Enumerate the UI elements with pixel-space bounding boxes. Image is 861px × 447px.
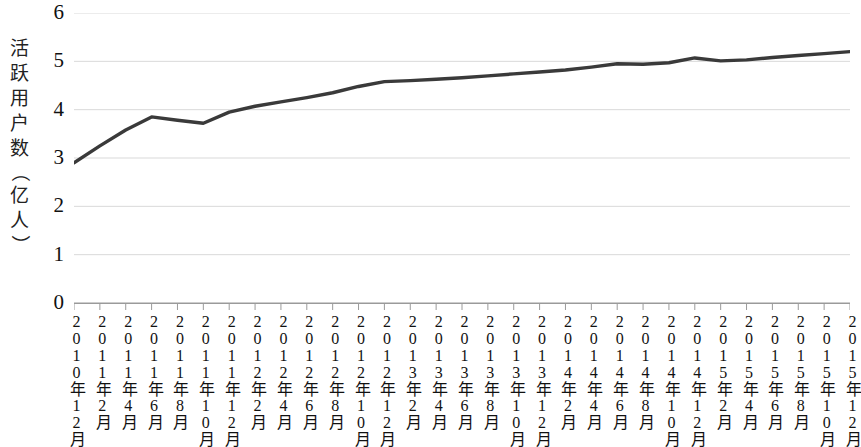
data-series-line	[74, 52, 850, 163]
x-axis-tick-label: 2015年6月	[762, 313, 782, 430]
y-axis-tick-label: 0	[38, 292, 64, 313]
y-axis-tick-label: 5	[38, 50, 64, 71]
x-axis-tick-label: 2013年2月	[400, 313, 420, 430]
gridlines	[74, 13, 850, 303]
x-axis-tick-label: 2015年8月	[788, 313, 808, 430]
x-axis-tick-label: 2012年2月	[245, 313, 265, 430]
x-axis-tick-label: 2011年2月	[90, 313, 110, 430]
x-axis-tick-label: 2011年6月	[142, 313, 162, 430]
x-axis-tick-label: 2013年8月	[478, 313, 498, 430]
y-axis-title-char: 跃	[2, 61, 36, 86]
y-axis-tick-labels: 0123456	[38, 0, 64, 310]
x-axis-tick-label: 2012年6月	[297, 313, 317, 430]
x-axis-tick-label: 2014年2月	[555, 313, 575, 430]
x-axis-tick-label: 2015年2月	[711, 313, 731, 430]
x-axis-tick-label: 2011年12月	[219, 313, 239, 447]
y-axis-tick-label: 1	[38, 244, 64, 265]
x-axis-tick-label: 2011年8月	[167, 313, 187, 430]
x-axis-tick-label: 2013年12月	[530, 313, 550, 447]
x-axis-tick-label: 2013年4月	[426, 313, 446, 430]
x-axis-tick-label: 2013年10月	[504, 313, 524, 447]
y-axis-tick-label: 4	[38, 99, 64, 120]
y-axis-title-char: 用	[2, 86, 36, 111]
y-axis-tick-label: 6	[38, 2, 64, 23]
x-axis-tick-label: 2014年12月	[685, 313, 705, 447]
x-axis-tick-labels: 2010年12月2011年2月2011年4月2011年6月2011年8月2011…	[74, 313, 850, 431]
plot-svg	[74, 13, 850, 303]
y-axis-tick-label: 2	[38, 195, 64, 216]
y-axis-tick-label: 3	[38, 147, 64, 168]
x-axis-tick-label: 2011年10月	[193, 313, 213, 447]
x-axis-tick-label: 2014年4月	[581, 313, 601, 430]
x-axis-tick-label: 2013年6月	[452, 313, 472, 430]
y-axis-title-char: 活	[2, 36, 36, 61]
x-axis	[74, 303, 850, 312]
x-axis-tick-label: 2015年12月	[840, 313, 860, 447]
y-axis-title: 活跃用户数（亿人）	[2, 36, 36, 255]
y-axis-title-char: ）	[8, 227, 30, 261]
y-axis-title-char: 户	[2, 111, 36, 136]
x-axis-tick-label: 2015年10月	[814, 313, 834, 447]
plot-area	[74, 13, 850, 303]
x-axis-tick-label: 2011年4月	[116, 313, 136, 430]
x-axis-tick-label: 2014年10月	[659, 313, 679, 447]
y-axis-title-char: （	[8, 155, 30, 189]
x-axis-tick-label: 2012年4月	[271, 313, 291, 430]
x-axis-tick-label: 2010年12月	[64, 313, 84, 447]
x-axis-tick-label: 2015年4月	[737, 313, 757, 430]
x-axis-tick-label: 2014年6月	[607, 313, 627, 430]
x-axis-svg	[74, 303, 850, 312]
x-axis-tick-label: 2012年10月	[349, 313, 369, 447]
x-axis-tick-label: 2012年8月	[323, 313, 343, 430]
x-axis-tick-label: 2012年12月	[374, 313, 394, 447]
x-axis-tick-label: 2014年8月	[633, 313, 653, 430]
